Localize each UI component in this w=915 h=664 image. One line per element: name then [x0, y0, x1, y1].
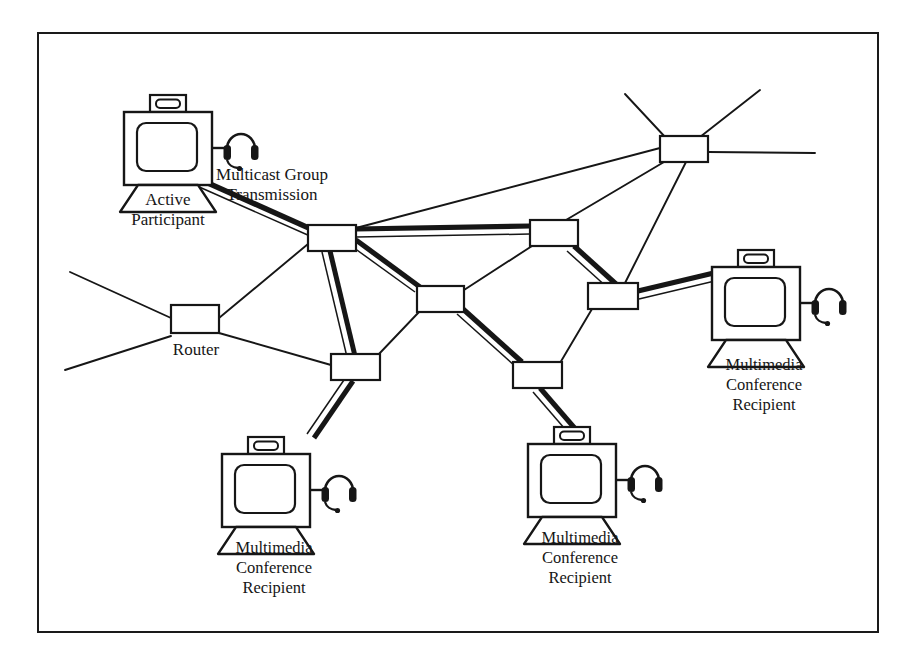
- router-node-labeled[interactable]: [171, 305, 219, 333]
- label-recipient-left-line1: Multimedia: [236, 538, 314, 557]
- label-router: Router: [173, 340, 220, 359]
- label-recipient-right-line2: Conference: [726, 375, 802, 394]
- label-recipient-left-line3: Recipient: [242, 578, 306, 597]
- label-multicast-caption-line2: Transmission: [226, 185, 318, 204]
- router-node-lower-mid[interactable]: [513, 362, 562, 388]
- router-node-center[interactable]: [417, 286, 464, 312]
- router-node-upper-right[interactable]: [530, 220, 578, 246]
- label-active-participant-line1: Active: [145, 190, 190, 209]
- stub-topright-right: [708, 152, 815, 153]
- label-recipient-right-line3: Recipient: [732, 395, 796, 414]
- label-recipient-right-line1: Multimedia: [726, 355, 804, 374]
- router-node-top-right[interactable]: [660, 136, 708, 162]
- network-diagram: Active Participant Multicast Group Trans…: [0, 0, 915, 664]
- label-recipient-center-line1: Multimedia: [542, 528, 620, 547]
- label-recipient-center-line2: Conference: [542, 548, 618, 567]
- label-recipient-left-line2: Conference: [236, 558, 312, 577]
- router-node-right-mid[interactable]: [588, 283, 638, 309]
- label-active-participant-line2: Participant: [131, 210, 205, 229]
- label-recipient-center-line3: Recipient: [548, 568, 612, 587]
- router-node-hub[interactable]: [308, 225, 356, 251]
- router-node-lower-left[interactable]: [331, 354, 380, 380]
- label-multicast-caption-line1: Multicast Group: [216, 165, 328, 184]
- figure-root: Active Participant Multicast Group Trans…: [0, 0, 915, 664]
